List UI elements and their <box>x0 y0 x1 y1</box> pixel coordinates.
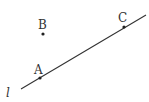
point-label-b: B <box>38 18 47 32</box>
geometry-diagram: l A B C <box>0 0 149 102</box>
point-label-a: A <box>33 63 43 77</box>
point-b <box>41 32 44 35</box>
line-label-l: l <box>6 86 10 100</box>
point-c <box>122 25 125 28</box>
point-label-c: C <box>118 11 127 25</box>
